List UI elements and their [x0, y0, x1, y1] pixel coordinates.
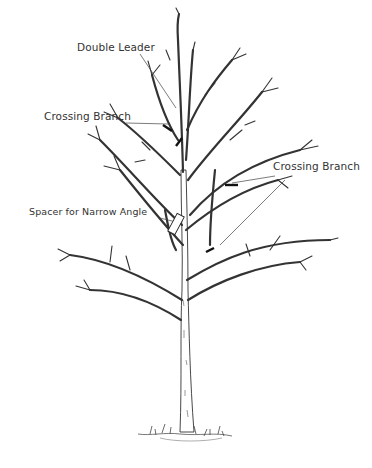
label-crossing-branch-right: Crossing Branch — [273, 160, 360, 172]
pruning-cut-marks — [163, 125, 238, 252]
label-crossing-branch-left: Crossing Branch — [44, 110, 131, 122]
tree-illustration — [0, 0, 372, 468]
label-spacer-narrow-angle: Spacer for Narrow Angle — [29, 206, 147, 218]
tree-pruning-diagram: Double Leader Crossing Branch Crossing B… — [0, 0, 372, 468]
label-double-leader: Double Leader — [77, 41, 155, 53]
